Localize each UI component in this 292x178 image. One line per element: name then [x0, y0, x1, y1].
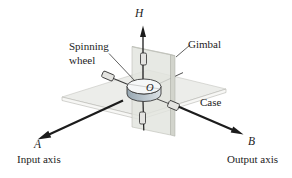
output-axis-arrowhead — [231, 127, 244, 135]
label-input-axis: Input axis — [17, 153, 61, 165]
diagram-canvas: O H Spinning wheel Gimbal Case A Input a… — [0, 0, 292, 178]
input-axis-arrow — [38, 101, 124, 140]
label-origin: O — [146, 82, 154, 93]
top-bearing — [141, 53, 147, 65]
label-a-point: A — [33, 138, 42, 150]
label-case: Case — [200, 96, 222, 108]
spinning-wheel-disk: O — [127, 79, 161, 102]
bottom-bearing — [140, 112, 146, 124]
h-arrowhead — [140, 26, 146, 38]
label-wheel: wheel — [69, 54, 95, 66]
left-bearing — [101, 71, 115, 82]
label-gimbal: Gimbal — [188, 38, 221, 50]
output-axis-shaft — [177, 106, 233, 130]
gyroscope-diagram: O H Spinning wheel Gimbal Case A Input a… — [0, 0, 292, 178]
label-output-axis: Output axis — [227, 153, 278, 165]
label-h-axis: H — [134, 7, 144, 19]
gimbal-plane-right-edge — [171, 55, 176, 137]
label-b-point: B — [248, 135, 255, 147]
label-spinning: Spinning — [69, 40, 109, 52]
